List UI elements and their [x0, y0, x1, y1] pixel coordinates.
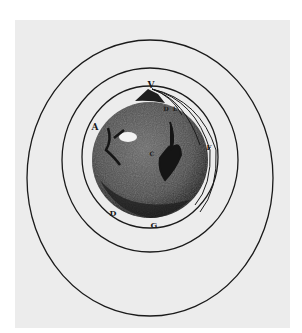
- label-f: F: [207, 143, 212, 152]
- landmass-highlight: [119, 132, 137, 142]
- label-a: A: [91, 122, 100, 132]
- label-d-upper: D: [163, 105, 168, 112]
- diagram-canvas: V A D G F D E C: [0, 0, 302, 333]
- label-c: C: [150, 150, 155, 157]
- label-v: V: [147, 80, 156, 90]
- label-e: E: [173, 105, 178, 112]
- label-g: G: [151, 220, 158, 230]
- label-d: D: [110, 208, 117, 218]
- earth-texture: [92, 102, 208, 218]
